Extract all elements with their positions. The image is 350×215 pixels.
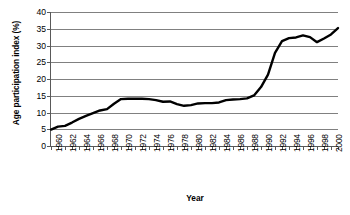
x-tick-label-1986: 1986	[236, 134, 246, 152]
x-tick-label-1972: 1972	[138, 134, 148, 152]
plot-area	[51, 12, 338, 146]
x-tick-label-1990: 1990	[264, 134, 274, 152]
x-tick-mark-1994	[289, 147, 290, 150]
x-tick-label-1974: 1974	[152, 134, 162, 152]
x-tick-mark-1960	[51, 147, 52, 150]
x-tick-mark-1978	[177, 147, 178, 150]
data-series-line	[51, 12, 338, 146]
x-tick-mark-1964	[79, 147, 80, 150]
x-tick-mark-1996	[303, 147, 304, 150]
y-tick-label-20: 20	[2, 74, 46, 84]
x-tick-mark-1968	[107, 147, 108, 150]
x-tick-label-1984: 1984	[222, 134, 232, 152]
x-tick-mark-1980	[191, 147, 192, 150]
x-tick-label-1996: 1996	[306, 134, 316, 152]
x-axis-title: Year	[51, 193, 339, 203]
x-tick-label-1968: 1968	[110, 134, 120, 152]
age-participation-index-line-chart: Age participation index (%) 051015202530…	[0, 0, 350, 215]
x-axis-ticks: 1960196219641966196819701972197419761978…	[51, 147, 339, 193]
x-tick-mark-1982	[205, 147, 206, 150]
y-tick-label-30: 30	[2, 41, 46, 51]
x-tick-mark-1974	[149, 147, 150, 150]
x-tick-mark-1988	[247, 147, 248, 150]
y-tick-label-15: 15	[2, 91, 46, 101]
x-tick-mark-1970	[121, 147, 122, 150]
y-tick-label-25: 25	[2, 57, 46, 67]
y-tick-label-0: 0	[2, 141, 46, 151]
x-tick-mark-1998	[317, 147, 318, 150]
x-tick-label-1982: 1982	[208, 134, 218, 152]
y-tick-label-10: 10	[2, 108, 46, 118]
y-axis-ticks: 0510152025303540	[0, 12, 46, 146]
x-tick-label-1962: 1962	[68, 134, 78, 152]
x-tick-mark-1972	[135, 147, 136, 150]
x-tick-mark-1976	[163, 147, 164, 150]
x-tick-mark-1992	[275, 147, 276, 150]
x-tick-mark-2000	[331, 147, 332, 150]
x-tick-label-1988: 1988	[250, 134, 260, 152]
x-tick-mark-1962	[65, 147, 66, 150]
x-tick-label-1998: 1998	[320, 134, 330, 152]
x-tick-label-1964: 1964	[82, 134, 92, 152]
x-tick-label-1980: 1980	[194, 134, 204, 152]
y-tick-label-5: 5	[2, 124, 46, 134]
x-tick-mark-1990	[261, 147, 262, 150]
x-tick-label-1992: 1992	[278, 134, 288, 152]
x-tick-label-1960: 1960	[54, 134, 64, 152]
x-tick-label-2000: 2000	[334, 134, 344, 152]
x-tick-label-1966: 1966	[96, 134, 106, 152]
x-tick-mark-1966	[93, 147, 94, 150]
y-tick-label-35: 35	[2, 24, 46, 34]
y-tick-label-40: 40	[2, 7, 46, 17]
x-tick-label-1978: 1978	[180, 134, 190, 152]
x-tick-label-1994: 1994	[292, 134, 302, 152]
x-tick-label-1976: 1976	[166, 134, 176, 152]
x-tick-label-1970: 1970	[124, 134, 134, 152]
x-tick-mark-1984	[219, 147, 220, 150]
x-tick-mark-1986	[233, 147, 234, 150]
